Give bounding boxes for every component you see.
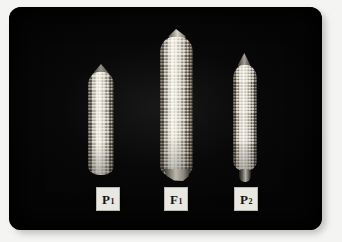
corn-ear-p1-kernels	[88, 72, 114, 175]
corn-ear-p1	[82, 62, 119, 177]
label-p2-subscript: 2	[248, 198, 252, 206]
corn-ear-p2-body	[233, 65, 257, 171]
corn-ear-f1-body	[160, 37, 193, 177]
label-p1-subscript: 1	[110, 198, 114, 206]
corn-ear-f1	[153, 29, 201, 181]
label-card-p2: P2	[234, 187, 258, 211]
corn-ear-f1-kernels	[160, 37, 193, 177]
label-card-f1: F1	[164, 187, 188, 211]
photograph: P1 F1 P2	[9, 7, 322, 230]
corn-ear-p2-stub	[239, 169, 251, 182]
corn-ear-p2	[225, 51, 267, 183]
label-card-p1: P1	[96, 187, 120, 211]
label-f1-subscript: 1	[178, 198, 182, 206]
corn-ear-p1-body	[88, 72, 114, 175]
label-f1-main: F	[170, 193, 178, 206]
label-p2-main: P	[240, 193, 248, 206]
corn-ear-f1-base	[162, 169, 192, 181]
figure-root: P1 F1 P2	[0, 0, 342, 242]
corn-ear-p2-kernels	[233, 65, 257, 171]
label-p1-main: P	[102, 193, 110, 206]
